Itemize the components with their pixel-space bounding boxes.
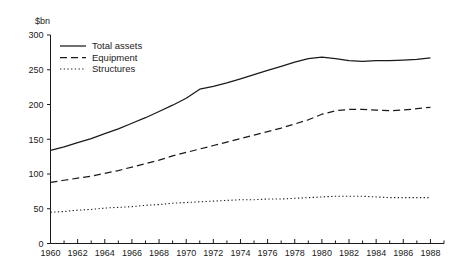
y-tick-label: 150 xyxy=(28,135,43,145)
x-tick-label: 1970 xyxy=(176,248,196,258)
x-tick-label: 1968 xyxy=(149,248,169,258)
y-axis-title: $bn xyxy=(35,16,50,26)
x-tick-label: 1984 xyxy=(366,248,386,258)
legend-label-structures: Structures xyxy=(92,63,136,74)
x-tick-label: 1964 xyxy=(95,248,115,258)
legend-label-equipment: Equipment xyxy=(92,52,138,63)
x-tick-label: 1986 xyxy=(393,248,413,258)
x-tick-label: 1978 xyxy=(285,248,305,258)
x-tick-label: 1972 xyxy=(203,248,223,258)
chart-container: $bn 050100150200250300 19601962196419661… xyxy=(0,0,451,272)
x-tick-label: 1966 xyxy=(122,248,142,258)
y-tick-label: 300 xyxy=(28,30,43,40)
y-tick-label: 100 xyxy=(28,169,43,179)
x-tick-label: 1980 xyxy=(312,248,332,258)
x-tick-label: 1974 xyxy=(230,248,250,258)
x-tick-label: 1962 xyxy=(68,248,88,258)
chart-background xyxy=(0,0,451,272)
x-tick-label: 1988 xyxy=(420,248,440,258)
y-tick-label: 50 xyxy=(33,204,43,214)
x-tick-label: 1960 xyxy=(40,248,60,258)
y-tick-label: 200 xyxy=(28,100,43,110)
line-chart: $bn 050100150200250300 19601962196419661… xyxy=(0,0,451,272)
legend-label-total-assets: Total assets xyxy=(92,40,142,51)
y-tick-label: 250 xyxy=(28,65,43,75)
x-tick-label: 1976 xyxy=(258,248,278,258)
x-tick-label: 1982 xyxy=(339,248,359,258)
chart-legend: Total assetsEquipmentStructures xyxy=(60,40,142,74)
